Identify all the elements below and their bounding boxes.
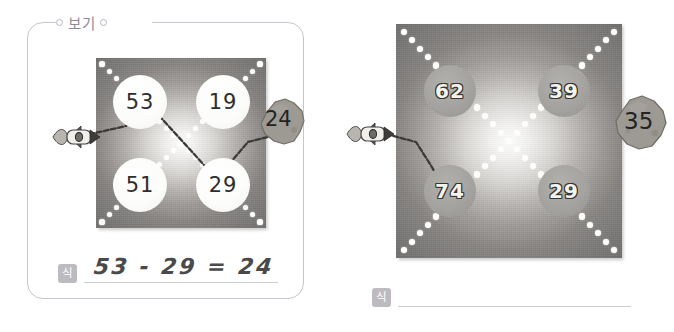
node-r0c1[interactable]: 19 [196, 75, 250, 129]
node-r0c1[interactable]: 39 [538, 65, 590, 117]
equation-badge: 식 [58, 264, 77, 283]
example-answer-value: 53 - 29 = 24 [93, 254, 276, 279]
node-value: 29 [549, 181, 579, 201]
node-r1c1[interactable]: 29 [538, 165, 590, 217]
node-value: 51 [126, 175, 155, 196]
example-answer-line: 53 - 29 = 24 [84, 258, 278, 283]
example-board: 53 19 51 29 [96, 58, 266, 228]
example-tag-label: 보기 [68, 12, 95, 33]
asteroid-35-value: 35 [624, 110, 653, 133]
problem-board: 62 39 74 29 [396, 24, 622, 258]
node-value: 74 [435, 181, 465, 201]
equation-badge: 식 [372, 288, 391, 307]
node-r0c0[interactable]: 62 [424, 65, 476, 117]
node-r1c1[interactable]: 29 [196, 158, 250, 212]
problem-answer-row: 식 [372, 282, 632, 307]
node-value: 39 [549, 81, 579, 101]
asteroid-24-value: 24 [265, 109, 292, 130]
problem-drawn-path [396, 24, 622, 258]
node-r1c0[interactable]: 51 [113, 158, 167, 212]
example-answer-row: 식 53 - 29 = 24 [58, 258, 278, 283]
example-tag: 보기 [56, 13, 107, 32]
node-value: 62 [435, 81, 465, 101]
ring-icon-left [56, 19, 63, 26]
asteroid-35[interactable]: 35 [614, 93, 668, 151]
node-value: 19 [209, 92, 238, 113]
problem-answer-line[interactable] [398, 282, 631, 307]
rocket-icon [51, 123, 103, 155]
node-r1c0[interactable]: 74 [424, 165, 476, 217]
ring-icon-right [100, 19, 107, 26]
rocket-icon [345, 120, 397, 152]
node-value: 53 [126, 92, 155, 113]
node-r0c0[interactable]: 53 [113, 75, 167, 129]
node-value: 29 [209, 175, 238, 196]
asteroid-24[interactable]: 24 [258, 96, 306, 146]
